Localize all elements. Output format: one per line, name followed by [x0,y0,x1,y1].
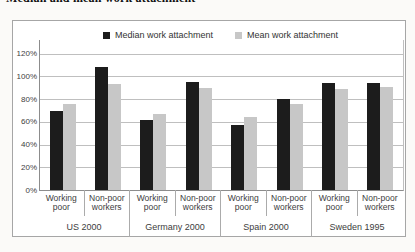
y-tick-label-60: 60% [13,118,37,126]
bar-median-4 [231,125,244,190]
bar-median-0 [50,111,63,191]
category-label-6: Working poor [311,190,357,216]
bar-mean-5 [290,104,303,190]
category-label-0: Working poor [39,190,84,216]
figure-caption: Median and mean work attachment [6,0,196,6]
bar-mean-0 [63,104,76,190]
legend-item-median: Median work attachment [103,30,213,40]
y-tick-label-120: 120% [13,50,37,58]
bar-mean-3 [199,88,212,190]
bar-median-1 [95,67,108,190]
legend-label-median: Median work attachment [115,30,213,40]
y-tick-label-80: 80% [13,96,37,104]
bar-median-3 [186,82,199,190]
bar-mean-1 [108,84,121,190]
bar-mean-7 [380,87,393,190]
bar-mean-6 [335,89,348,190]
category-label-7: Non-poor workers [357,190,403,216]
group-axis: US 2000Germany 2000Spain 2000Sweden 1995 [39,216,402,237]
category-axis: Working poorNon-poor workersWorking poor… [39,190,402,216]
chart: Median work attachment Mean work attachm… [12,20,406,237]
legend-swatch-median [103,32,110,39]
group-label-0: US 2000 [39,216,129,237]
page: { "caption": "Median and mean work attac… [0,0,415,252]
bar-mean-4 [244,117,257,190]
category-label-2: Working poor [129,190,175,216]
bar-mean-2 [153,114,166,190]
plot-area [39,40,404,191]
category-label-4: Working poor [220,190,266,216]
category-label-5: Non-poor workers [266,190,312,216]
bar-median-6 [322,83,335,190]
bar-median-2 [140,120,153,190]
bar-median-5 [277,99,290,190]
legend-item-mean: Mean work attachment [235,30,338,40]
group-label-1: Germany 2000 [129,216,220,237]
legend-swatch-mean [235,32,242,39]
y-tick-label-20: 20% [13,164,37,172]
category-label-1: Non-poor workers [84,190,130,216]
bar-median-7 [367,83,380,190]
category-label-3: Non-poor workers [175,190,221,216]
y-axis-labels: 120%100%80%60%40%20%0% [13,40,37,190]
y-tick-label-0: 0% [13,187,37,195]
gridline-120 [40,54,403,55]
y-tick-label-100: 100% [13,73,37,81]
y-tick-label-40: 40% [13,141,37,149]
group-label-3: Sweden 1995 [311,216,402,237]
group-label-2: Spain 2000 [220,216,311,237]
legend-label-mean: Mean work attachment [247,30,338,40]
